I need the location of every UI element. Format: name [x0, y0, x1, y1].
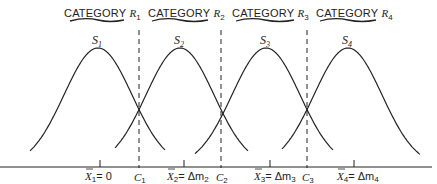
mean-label-1: X1= 0 — [84, 169, 112, 184]
category-header-2: CATEGORY R2 — [148, 7, 225, 22]
distribution-label-3: S3 — [260, 33, 270, 49]
distribution-label-2: S2 — [174, 33, 184, 49]
category-brace-1 — [70, 19, 124, 22]
distribution-curve-1 — [30, 48, 165, 151]
category-brace-3 — [236, 19, 294, 22]
category-header-3: CATEGORY R3 — [232, 7, 309, 22]
signal-detection-diagram: CATEGORY R1 CATEGORY R2 CATEGORY R3 CATE… — [0, 0, 437, 184]
category-header-1: CATEGORY R1 — [64, 7, 141, 22]
distribution-curves — [30, 48, 420, 154]
distribution-curve-2 — [115, 48, 248, 151]
category-brace-4 — [320, 19, 376, 22]
distribution-curve-3 — [195, 48, 333, 154]
mean-label-2: X2= Δm2 — [166, 169, 209, 184]
distribution-label-1: S1 — [92, 33, 102, 49]
criterion-label-2: C2 — [216, 171, 228, 184]
svg-text:X3= Δm3: X3= Δm3 — [253, 170, 296, 184]
svg-text:X1= 0: X1= 0 — [84, 170, 112, 184]
svg-text:X2= Δm2: X2= Δm2 — [166, 170, 209, 184]
mean-label-4: X4= Δm4 — [336, 169, 379, 184]
criterion-label-3: C3 — [302, 171, 314, 184]
svg-text:X4= Δm4: X4= Δm4 — [336, 170, 379, 184]
mean-label-3: X3= Δm3 — [253, 169, 296, 184]
category-brace-2 — [152, 19, 208, 22]
criterion-label-1: C1 — [134, 171, 146, 184]
category-header-4: CATEGORY R4 — [316, 7, 393, 22]
distribution-label-4: S4 — [342, 33, 352, 49]
